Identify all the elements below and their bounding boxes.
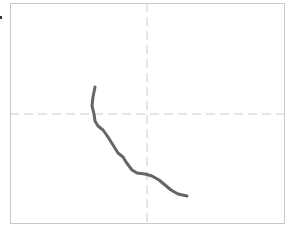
plot-canvas bbox=[0, 0, 288, 227]
trajectory-curve bbox=[92, 87, 187, 196]
